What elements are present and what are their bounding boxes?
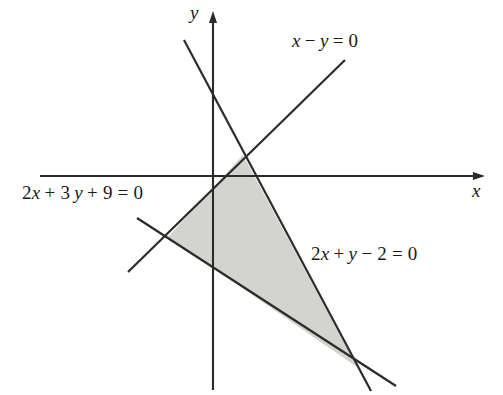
label-part-x: x [292,30,301,51]
label-part-y: y [320,30,329,51]
equation-label-2x-y-2: 2x+y− 2 = 0 [311,243,422,265]
label-part-x: x [321,243,330,264]
equation-label-2x-3y-9: 2x+ 3y+ 9 = 0 [22,182,147,204]
label-part-coeff-2: 2 [311,243,321,264]
label-part-minus: − [305,30,316,51]
label-part-plus: + [334,243,345,264]
label-part-plus-3: + 3 [45,182,71,203]
label-part-equals-zero: = 0 [333,30,359,51]
label-part-coeff-2: 2 [22,182,32,203]
label-part-y: y [74,182,83,203]
label-part-minus-2-equals-zero: − 2 = 0 [361,243,417,264]
label-part-x: x [32,182,41,203]
label-part-plus-9-equals-zero: + 9 = 0 [87,182,143,203]
equation-label-x-minus-y: x−y= 0 [292,30,362,52]
y-axis-label: y [190,2,198,24]
label-part-y: y [349,243,358,264]
math-figure: x−y= 0 2x+ 3y+ 9 = 0 2x+y− 2 = 0 y x [0,0,503,395]
x-axis-label: x [472,180,480,202]
